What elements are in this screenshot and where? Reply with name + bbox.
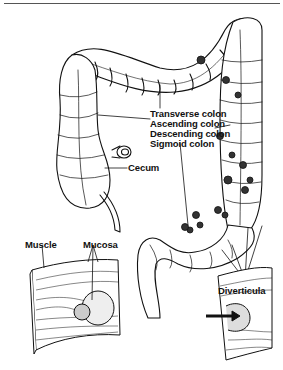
label-sigmoid-colon: Sigmoid colon <box>150 139 214 149</box>
diverticulum-specimen <box>206 267 272 360</box>
colon-illustration <box>0 0 283 370</box>
label-mucosa: Mucosa <box>83 240 118 250</box>
mucosa-specimen <box>30 245 120 354</box>
label-muscle: Muscle <box>25 240 57 250</box>
appendix-shape <box>100 192 120 232</box>
label-cecum: Cecum <box>128 163 159 173</box>
label-diverticula: Diverticula <box>218 286 265 296</box>
